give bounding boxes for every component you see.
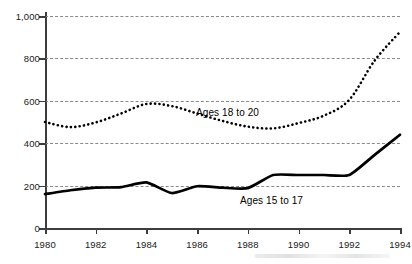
x-axis-label-1994: 1994 [389,240,411,250]
data-series-layer [45,16,400,228]
series-line-ages-15-to-17 [45,135,400,194]
x-axis-label-1992: 1992 [339,240,361,250]
x-tick-1990 [299,228,301,234]
x-axis-label-1986: 1986 [186,240,208,250]
x-axis-label-1980: 1980 [34,240,56,250]
y-axis-label-200: 200 [24,182,40,192]
x-axis-label-1988: 1988 [237,240,259,250]
y-axis-label-400: 400 [24,139,40,149]
x-axis-label-1982: 1982 [85,240,107,250]
x-axis-label-1984: 1984 [136,240,158,250]
scan-artifact [255,254,390,258]
x-axis-label-1990: 1990 [288,240,310,250]
x-tick-1986 [197,228,199,234]
x-tick-1988 [248,228,250,234]
y-axis-label-800: 800 [24,54,40,64]
series-label-ages-15-to-17: Ages 15 to 17 [240,196,303,206]
x-tick-1992 [349,228,351,234]
y-axis-label-600: 600 [24,97,40,107]
series-label-ages-18-to-20: Ages 18 to 20 [196,108,259,118]
x-tick-1994 [400,228,402,234]
plot-area [45,16,400,228]
chart-container: 02004006008001,000 198019821984198619881… [0,0,412,264]
y-axis-label-0: 0 [35,224,40,234]
x-tick-1982 [96,228,98,234]
x-tick-1984 [146,228,148,234]
x-tick-1980 [45,228,47,234]
y-axis-label-1000: 1,000 [16,12,40,22]
